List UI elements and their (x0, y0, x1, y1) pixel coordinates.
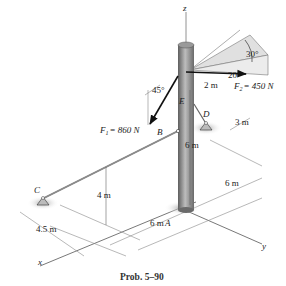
f1-arrow (150, 76, 178, 124)
angle-20-label: 20° (228, 70, 241, 80)
figure-caption: Prob. 5–90 (120, 272, 164, 282)
dim-6m-x-label: 6 m (150, 218, 164, 228)
pole-top (178, 42, 194, 48)
x-axis-line (40, 208, 180, 266)
dim-3m-label: 3 m (235, 117, 249, 127)
y-axis-label: y (261, 241, 266, 251)
dim-4m-label: 4 m (97, 190, 111, 200)
dim-6m-y-label: 6 m (225, 178, 239, 188)
point-a-label: A (164, 218, 171, 228)
dim-6m-vertical: 6 m (185, 140, 199, 150)
dim-4-5m-label: 4.5 m (36, 224, 57, 234)
dim-2m-label: 2 m (204, 80, 218, 90)
point-e-label: E (178, 96, 185, 106)
statics-diagram: z 30° 20° 2 m F2= 450 N 45° F1= 860 N B … (0, 0, 286, 286)
f1-label: F1= 860 N (99, 125, 141, 136)
point-d-label: D (202, 109, 210, 119)
point-b (176, 129, 179, 132)
point-c-label: C (34, 185, 41, 195)
angle-30-label: 30° (246, 49, 259, 59)
x-axis-label: x (37, 257, 42, 267)
f2-label: F2= 450 N (233, 81, 275, 92)
pole-bottom (178, 207, 194, 213)
pole (178, 45, 194, 210)
point-b-label: B (157, 127, 163, 137)
z-axis-label: z (182, 3, 187, 13)
angle-45-label: 45° (152, 85, 165, 95)
